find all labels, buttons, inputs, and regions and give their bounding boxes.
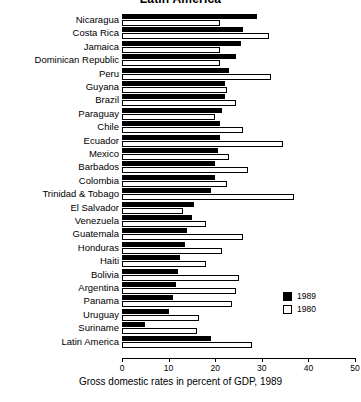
chart-row: Chile: [0, 121, 361, 134]
category-label: Costa Rica: [0, 26, 119, 39]
chart-row: Dominican Republic: [0, 54, 361, 67]
x-axis-tick: [215, 358, 216, 362]
bar-1980: [122, 74, 271, 80]
x-axis-tick: [262, 358, 263, 362]
x-axis-tick: [169, 358, 170, 362]
bar-1980: [122, 328, 197, 334]
bar-1989: [122, 175, 215, 180]
category-label: Trinidad & Tobago: [0, 187, 119, 200]
chart-row: Trinidad & Tobago: [0, 188, 361, 201]
x-axis-tick: [122, 358, 123, 362]
bar-1989: [122, 108, 222, 113]
bar-1980: [122, 20, 220, 26]
bar-1989: [122, 309, 169, 314]
bar-1980: [122, 141, 283, 147]
chart-row: Barbados: [0, 161, 361, 174]
chart-row: Latin America: [0, 336, 361, 349]
chart-row: Guatemala: [0, 228, 361, 241]
chart-row: Mexico: [0, 148, 361, 161]
chart-row: Colombia: [0, 175, 361, 188]
x-axis-title: Gross domestic rates in percent of GDP, …: [0, 376, 361, 387]
x-axis-tick-label: 10: [164, 363, 173, 373]
category-label: Dominican Republic: [0, 53, 119, 66]
category-label: Honduras: [0, 241, 119, 254]
bar-1980: [122, 221, 206, 227]
bar-1989: [122, 188, 211, 193]
x-axis-tick-label: 0: [120, 363, 125, 373]
chart-legend: 19891980: [283, 292, 316, 318]
bar-1980: [122, 154, 229, 160]
category-label: Barbados: [0, 160, 119, 173]
category-label: Suriname: [0, 321, 119, 334]
bar-1980: [122, 275, 239, 281]
category-label: El Salvador: [0, 201, 119, 214]
x-axis-tick-label: 20: [210, 363, 219, 373]
bar-1980: [122, 167, 248, 173]
bar-1989: [122, 202, 194, 207]
bar-1989: [122, 269, 178, 274]
bar-1980: [122, 33, 269, 39]
chart-row: Brazil: [0, 94, 361, 107]
bar-1989: [122, 228, 187, 233]
bar-1989: [122, 161, 215, 166]
chart-row: Costa Rica: [0, 27, 361, 40]
chart-row: Guyana: [0, 81, 361, 94]
x-axis-tick: [308, 358, 309, 362]
chart-row: Bolivia: [0, 269, 361, 282]
bar-1989: [122, 81, 225, 86]
bar-1989: [122, 68, 229, 73]
legend-entry: 1989: [283, 292, 316, 301]
legend-entry: 1980: [283, 305, 316, 314]
category-label: Latin America: [0, 335, 119, 348]
category-label: Panama: [0, 294, 119, 307]
bar-1980: [122, 315, 199, 321]
chart-row: Peru: [0, 68, 361, 81]
bar-1980: [122, 261, 206, 267]
category-label: Ecuador: [0, 134, 119, 147]
chart-row: Nicaragua: [0, 14, 361, 27]
chart-row: Honduras: [0, 242, 361, 255]
bar-1989: [122, 27, 243, 32]
x-axis-tick-label: 50: [350, 363, 359, 373]
chart-row: Jamaica: [0, 41, 361, 54]
bar-1980: [122, 248, 222, 254]
bar-1980: [122, 342, 252, 348]
chart-title: Latin America: [0, 0, 361, 6]
bar-1980: [122, 87, 227, 93]
bar-1989: [122, 148, 218, 153]
category-label: Haiti: [0, 254, 119, 267]
category-label: Guyana: [0, 80, 119, 93]
x-axis-line: [122, 358, 355, 359]
bar-1980: [122, 114, 215, 120]
bar-1980: [122, 288, 236, 294]
bar-1980: [122, 194, 294, 200]
category-label: Argentina: [0, 281, 119, 294]
category-label: Nicaragua: [0, 13, 119, 26]
chart-row: Suriname: [0, 322, 361, 335]
category-label: Mexico: [0, 147, 119, 160]
bar-1989: [122, 336, 211, 341]
category-label: Uruguay: [0, 308, 119, 321]
bar-1980: [122, 301, 232, 307]
chart-row: El Salvador: [0, 202, 361, 215]
legend-label: 1980: [297, 305, 316, 314]
bar-1989: [122, 242, 185, 247]
bar-1989: [122, 41, 241, 46]
chart-row: Ecuador: [0, 135, 361, 148]
category-label: Bolivia: [0, 268, 119, 281]
bar-1989: [122, 135, 220, 140]
bar-1980: [122, 127, 243, 133]
bar-1989: [122, 121, 220, 126]
chart-row: Haiti: [0, 255, 361, 268]
category-label: Brazil: [0, 93, 119, 106]
bar-1989: [122, 322, 145, 327]
legend-label: 1989: [297, 292, 316, 301]
bar-1989: [122, 94, 225, 99]
bar-1980: [122, 181, 227, 187]
chart-row: Venezuela: [0, 215, 361, 228]
bar-1980: [122, 208, 183, 214]
legend-swatch-1989: [283, 292, 292, 301]
bar-1980: [122, 60, 220, 66]
bar-1989: [122, 255, 180, 260]
bar-1989: [122, 54, 236, 59]
